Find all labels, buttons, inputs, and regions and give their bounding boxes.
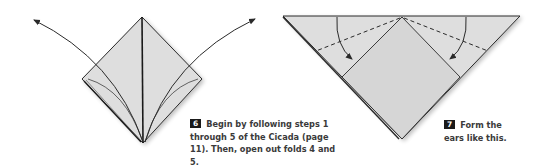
step-7-line-1: Form the (460, 120, 502, 130)
step-7-caption: 7Form the ears like this. (444, 119, 542, 144)
step-number-badge: 6 (190, 119, 201, 128)
center-crease (142, 17, 143, 143)
step-6-caption: 6Begin by following steps 1 through 5 of… (190, 118, 340, 167)
step-6-line-3: 11). Then, open out folds 4 and 5. (190, 144, 335, 167)
step-7-line-2: ears like this. (444, 133, 507, 143)
step-6-line-2: through 5 of the Cicada (page (190, 132, 328, 142)
step-6-line-1: Begin by following steps 1 (206, 119, 328, 129)
step-number-badge: 7 (444, 120, 455, 129)
